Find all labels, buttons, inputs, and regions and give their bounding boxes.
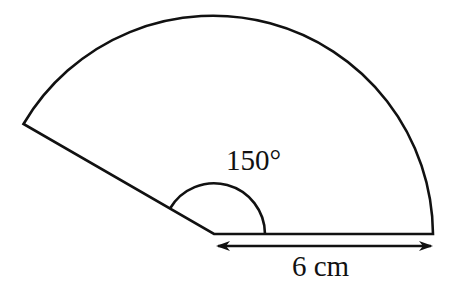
sector-diagram: 150° 6 cm bbox=[0, 0, 452, 299]
sector-outline bbox=[24, 16, 434, 234]
angle-label: 150° bbox=[226, 144, 281, 177]
angle-arc bbox=[170, 183, 265, 234]
radius-length-label: 6 cm bbox=[292, 250, 349, 283]
